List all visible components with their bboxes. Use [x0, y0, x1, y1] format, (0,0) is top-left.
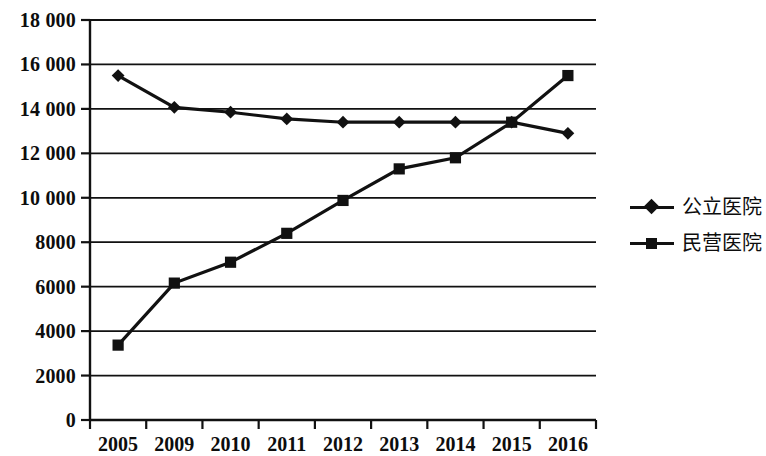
data-point-marker [280, 112, 293, 125]
data-point-marker [506, 117, 517, 128]
y-axis-tick-label: 8000 [0, 232, 76, 252]
square-marker-icon [630, 234, 674, 252]
diamond-marker-icon [630, 198, 674, 216]
data-point-marker [449, 116, 462, 129]
y-axis-tick-label: 18 000 [0, 10, 76, 30]
data-point-marker [113, 340, 124, 351]
data-point-marker [394, 163, 405, 174]
y-axis-tick-label: 12 000 [0, 143, 76, 163]
data-point-marker [112, 69, 125, 82]
series-public-hospitals [112, 69, 575, 140]
legend-item-private-hospitals[interactable]: 民营医院 [630, 230, 762, 256]
data-point-marker [225, 257, 236, 268]
data-point-marker [337, 116, 350, 129]
data-point-marker [561, 127, 574, 140]
legend-item-public-hospitals[interactable]: 公立医院 [630, 194, 762, 220]
data-point-marker [169, 278, 180, 289]
legend-label-public-hospitals: 公立医院 [682, 197, 762, 217]
data-point-marker [337, 195, 348, 206]
y-axis-ticks [81, 20, 90, 420]
x-axis-ticks [90, 420, 596, 429]
data-point-marker [450, 152, 461, 163]
y-axis-tick-label: 14 000 [0, 99, 76, 119]
data-point-marker [168, 101, 181, 114]
y-axis-tick-label: 6000 [0, 277, 76, 297]
y-axis-tick-label: 2000 [0, 366, 76, 386]
series-private-hospitals [113, 70, 574, 351]
data-series-layer [112, 69, 575, 351]
data-point-marker [281, 228, 292, 239]
line-chart: 0200040006000800010 00012 00014 00016 00… [0, 0, 766, 456]
data-point-marker [393, 116, 406, 129]
chart-canvas [0, 0, 766, 456]
y-axis-tick-label: 16 000 [0, 54, 76, 74]
legend-label-private-hospitals: 民营医院 [682, 233, 762, 253]
data-point-marker [224, 106, 237, 119]
data-point-marker [562, 70, 573, 81]
y-axis-tick-label: 10 000 [0, 188, 76, 208]
y-axis-tick-label: 0 [0, 410, 76, 430]
y-axis-tick-label: 4000 [0, 321, 76, 341]
x-axis-tick-label: 2016 [534, 434, 602, 454]
